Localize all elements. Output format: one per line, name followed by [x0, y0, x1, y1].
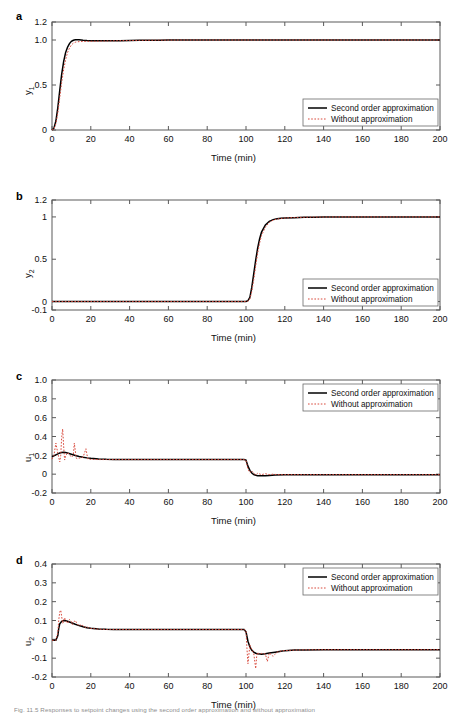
x-tick-label: 120 — [277, 314, 292, 324]
x-tick-label: 40 — [125, 497, 135, 507]
y-tick-label: 0 — [42, 635, 47, 645]
x-tick-label: 100 — [238, 497, 253, 507]
y-tick-label: -0.2 — [31, 488, 47, 498]
series-without-approximation — [52, 610, 440, 668]
y-tick-label: 0.4 — [34, 432, 47, 442]
y-tick-label: 0.4 — [34, 559, 47, 569]
x-tick-label: 160 — [355, 314, 370, 324]
y-tick-label: 0.5 — [34, 254, 47, 264]
figure-container: a y1 02040608010012014016018020000.51.01… — [0, 0, 467, 720]
x-tick-label: 180 — [394, 497, 409, 507]
x-tick-label: 120 — [277, 497, 292, 507]
panel-a: a y1 02040608010012014016018020000.51.01… — [0, 0, 467, 170]
y-tick-label: 1.2 — [34, 195, 47, 205]
x-tick-label: 200 — [432, 134, 447, 144]
panel-b: b y2 020406080100120140160180200-0.100.5… — [0, 178, 467, 350]
x-tick-label: 100 — [238, 134, 253, 144]
x-tick-label: 20 — [86, 134, 96, 144]
legend-label-second-order: Second order approximation — [331, 284, 434, 293]
x-tick-label: 80 — [202, 497, 212, 507]
y-tick-label: -0.2 — [31, 672, 47, 682]
legend-label-without-approx: Without approximation — [331, 295, 413, 304]
x-tick-label: 200 — [432, 681, 447, 691]
x-tick-label: 100 — [238, 681, 253, 691]
x-tick-label: 120 — [277, 134, 292, 144]
legend-label-without-approx: Without approximation — [331, 115, 413, 124]
panel-c-plot: 020406080100120140160180200-0.200.20.40.… — [0, 358, 467, 513]
panel-c-xlabel: Time (min) — [0, 515, 467, 526]
panel-b-xlabel: Time (min) — [0, 332, 467, 343]
panel-c: c u1 020406080100120140160180200-0.200.2… — [0, 358, 467, 534]
panel-a-xlabel: Time (min) — [0, 152, 467, 163]
y-tick-label: 0.2 — [34, 597, 47, 607]
y-tick-label: 1.0 — [34, 375, 47, 385]
legend-label-second-order: Second order approximation — [331, 389, 434, 398]
x-tick-label: 140 — [316, 134, 331, 144]
legend-label-without-approx: Without approximation — [331, 400, 413, 409]
x-tick-label: 80 — [202, 314, 212, 324]
panel-b-plot: 020406080100120140160180200-0.100.511.2S… — [0, 178, 467, 330]
y-tick-label: 0.8 — [34, 394, 47, 404]
y-tick-label: 0 — [42, 125, 47, 135]
x-tick-label: 40 — [125, 134, 135, 144]
y-tick-label: 1 — [42, 212, 47, 222]
x-tick-label: 100 — [238, 314, 253, 324]
x-tick-label: 0 — [49, 314, 54, 324]
x-tick-label: 180 — [394, 681, 409, 691]
y-tick-label: 0.5 — [34, 80, 47, 90]
x-tick-label: 140 — [316, 314, 331, 324]
x-tick-label: 60 — [163, 497, 173, 507]
x-tick-label: 200 — [432, 497, 447, 507]
series-without-approximation — [52, 429, 440, 475]
legend-label-without-approx: Without approximation — [331, 584, 413, 593]
x-tick-label: 0 — [49, 497, 54, 507]
y-tick-label: 0.3 — [34, 578, 47, 588]
x-tick-label: 140 — [316, 497, 331, 507]
x-tick-label: 80 — [202, 681, 212, 691]
y-tick-label: 1.0 — [34, 35, 47, 45]
y-tick-label: 0 — [42, 469, 47, 479]
y-tick-label: 0 — [42, 297, 47, 307]
x-tick-label: 160 — [355, 134, 370, 144]
y-tick-label: 0.1 — [34, 616, 47, 626]
panel-d: d u2 020406080100120140160180200-0.2-0.1… — [0, 542, 467, 718]
x-tick-label: 0 — [49, 134, 54, 144]
series-second-order-approximation — [52, 452, 440, 476]
x-tick-label: 0 — [49, 681, 54, 691]
x-tick-label: 60 — [163, 134, 173, 144]
x-tick-label: 40 — [125, 314, 135, 324]
y-tick-label: 0.2 — [34, 451, 47, 461]
x-tick-label: 20 — [86, 314, 96, 324]
x-tick-label: 80 — [202, 134, 212, 144]
x-tick-label: 140 — [316, 681, 331, 691]
y-tick-label: 1.2 — [34, 17, 47, 27]
x-tick-label: 20 — [86, 497, 96, 507]
legend-label-second-order: Second order approximation — [331, 104, 434, 113]
x-tick-label: 20 — [86, 681, 96, 691]
y-tick-label: 0.6 — [34, 413, 47, 423]
figure-caption: Fig. 11.5 Responses to setpoint changes … — [14, 706, 454, 714]
legend-label-second-order: Second order approximation — [331, 573, 434, 582]
y-tick-label: -0.1 — [31, 653, 47, 663]
panel-a-plot: 02040608010012014016018020000.51.01.2Sec… — [0, 0, 467, 150]
panel-d-plot: 020406080100120140160180200-0.2-0.100.10… — [0, 542, 467, 697]
x-tick-label: 180 — [394, 134, 409, 144]
series-second-order-approximation — [52, 621, 440, 655]
x-tick-label: 40 — [125, 681, 135, 691]
x-tick-label: 60 — [163, 314, 173, 324]
x-tick-label: 60 — [163, 681, 173, 691]
x-tick-label: 120 — [277, 681, 292, 691]
x-tick-label: 160 — [355, 497, 370, 507]
x-tick-label: 200 — [432, 314, 447, 324]
x-tick-label: 160 — [355, 681, 370, 691]
x-tick-label: 180 — [394, 314, 409, 324]
